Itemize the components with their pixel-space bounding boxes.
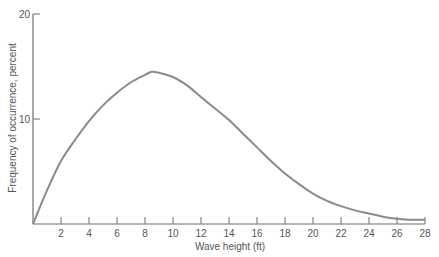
x-tick-label: 4 [86,228,92,239]
y-tick-label: 20 [19,9,31,20]
x-tick-label: 20 [307,228,319,239]
x-tick-label: 12 [195,228,207,239]
chart: 2468101214161820222426281020 Wave height… [0,0,439,257]
data-line [33,72,425,224]
x-tick-label: 14 [223,228,235,239]
x-tick-label: 28 [419,228,431,239]
x-axis-title: Wave height (ft) [195,241,265,252]
x-tick-label: 16 [251,228,263,239]
x-tick-label: 24 [363,228,375,239]
x-tick-label: 26 [391,228,403,239]
ticks: 2468101214161820222426281020 [19,9,431,239]
y-tick-label: 10 [19,114,31,125]
x-tick-label: 22 [335,228,347,239]
x-tick-label: 10 [167,228,179,239]
x-tick-label: 6 [114,228,120,239]
y-axis-title: Frequency of occurrence, percent [7,43,18,193]
x-tick-label: 2 [58,228,64,239]
x-tick-label: 8 [142,228,148,239]
x-tick-label: 18 [279,228,291,239]
